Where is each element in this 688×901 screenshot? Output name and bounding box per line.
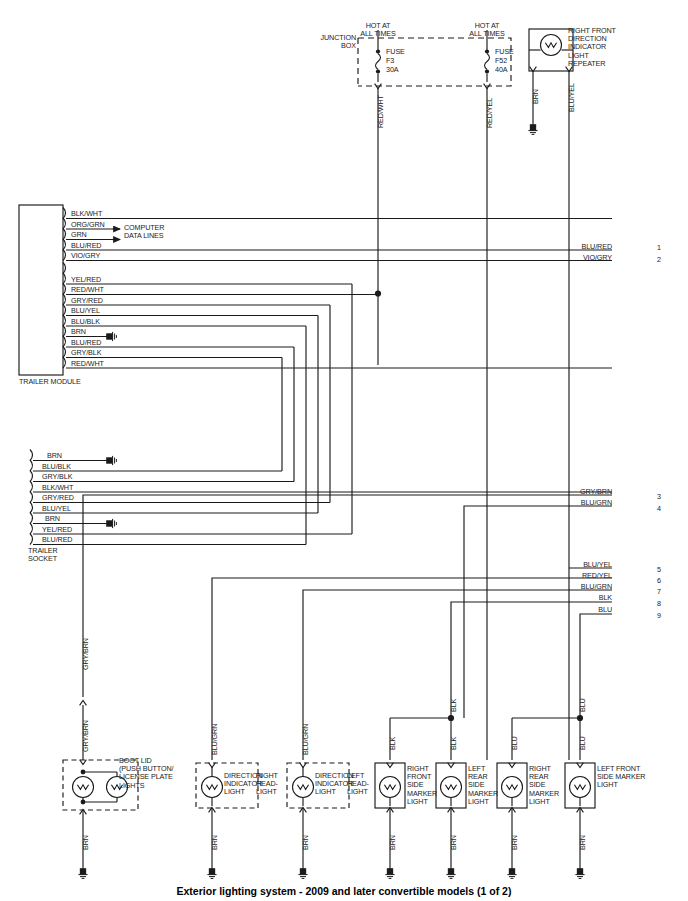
rc-wire-0: BLU/RED [552, 243, 612, 251]
wire-label-col5-top: BLK [449, 737, 458, 750]
rc-num-1: 2 [657, 256, 661, 264]
tm-pin-label-3: BLU/RED [71, 242, 101, 250]
rc-wire-6: BLU/GRN [552, 583, 612, 591]
rc-wire-7: BLK [552, 594, 612, 602]
tm-pin-label-1: ORG/GRN [71, 221, 105, 229]
lamp-label-right-front-side-marker: RIGHT FRONT SIDE MARKER LIGHT [407, 765, 449, 806]
lamp-label-right-headlight: RIGHT HEAD- LIGHT [256, 772, 290, 797]
rc-num-5: 6 [657, 577, 661, 585]
tm-pin-label-7: GRY/RED [71, 297, 103, 305]
computer-data-arrows [112, 229, 120, 240]
wire-label-blu-junction-upper: BLU [578, 698, 587, 712]
right-front-indicator-repeater [528, 29, 573, 760]
right-front-indicator-repeater-label: RIGHT FRONT DIRECTION INDICATOR LIGHT RE… [568, 27, 684, 68]
rc-num-4: 5 [657, 566, 661, 574]
fuse-f3-label: FUSE [386, 48, 405, 56]
tm-pin-label-2: GRN [71, 231, 87, 239]
wire-label-top-lamp-blu-yel: BLU/YEL [567, 83, 576, 112]
rc-wire-8: BLU [552, 606, 612, 614]
wire-label-col5-bottom: BRN [449, 835, 458, 850]
wire-label-col7-top: BLU [578, 736, 587, 750]
wire-label-col2-top: BLU/GRN [210, 724, 219, 755]
wire-label-col3-top: BLU/GRN [301, 724, 310, 755]
ts-pin-label-7: YEL/RED [42, 526, 72, 534]
rc-wire-4: BLU/YEL [552, 561, 612, 569]
ts-pin-label-0: BRN [47, 452, 62, 460]
diagram-canvas [0, 0, 688, 901]
trailer-socket-pins [30, 450, 612, 545]
ts-pin-label-8: BLU/RED [42, 536, 72, 544]
tm-pin-label-6: RED/WHT [71, 286, 104, 294]
rc-wire-5: RED/YEL [552, 572, 612, 580]
trailer-module-name: TRAILER MODULE [19, 378, 81, 386]
wire-label-red-yel-f52: RED/YEL [485, 98, 494, 128]
lamp-label-left-front-side-marker: LEFT FRONT SIDE MARKER LIGHT [597, 765, 679, 790]
rc-num-0: 1 [657, 244, 661, 252]
wire-label-col4-bottom: BRN [388, 835, 397, 850]
wire-bundle-routes [282, 284, 352, 545]
tm-pin-label-13: RED/WHT [71, 360, 104, 368]
gry-brn-route [80, 495, 612, 760]
trailer-socket-name: TRAILER SOCKET [28, 547, 88, 563]
tm-pin-label-12: GRY/BLK [71, 349, 101, 357]
fuse-f3-id: F3 [386, 57, 394, 65]
wire-label-col6-top: BLU [510, 736, 519, 750]
wire-label-boot-lid-brn: BRN [81, 835, 90, 850]
wire-label-top-lamp-brn: BRN [531, 89, 540, 104]
wire-label-col6-bottom: BRN [510, 835, 519, 850]
ts-pin-label-5: BLU/YEL [42, 505, 71, 513]
red-wht-trunk [375, 252, 381, 365]
tm-pin-label-8: BLU/YEL [71, 307, 100, 315]
rc-wire-1: VIO/GRY [552, 254, 612, 262]
diagram-caption: Exterior lighting system - 2009 and late… [0, 885, 688, 897]
junction-box-outline [358, 38, 511, 86]
fuse-f52 [484, 30, 491, 760]
blk-rail-8 [451, 602, 612, 718]
wire-label-blk-junction-upper: BLK [449, 699, 458, 712]
blk-branch [390, 715, 454, 760]
blu-branch [512, 715, 583, 760]
tm-pin-label-11: BLU/RED [71, 339, 101, 347]
rc-num-8: 9 [657, 612, 661, 620]
lamp-label-left-headlight: LEFT HEAD- LIGHT [347, 772, 381, 797]
wire-label-col2-bottom: BRN [210, 835, 219, 850]
tm-pin-label-10: BRN [71, 328, 86, 336]
fuse-f3-rating: 30A [386, 66, 399, 74]
ts-pin-label-3: BLK/WHT [42, 484, 73, 492]
tm-pin-label-0: BLK/WHT [71, 210, 102, 218]
rc-num-2: 3 [657, 493, 661, 501]
ts-pin-label-2: GRY/BLK [42, 473, 72, 481]
lamp-label-left-rear-side-marker: LEFT REAR SIDE MARKER LIGHT [468, 765, 510, 806]
blu-grn-rail-7 [303, 590, 612, 760]
ts-pin-label-4: GRY/RED [42, 494, 74, 502]
tm-pin-label-5: YEL/RED [71, 276, 101, 284]
rc-num-6: 7 [657, 588, 661, 596]
fuse-f52-rating: 40A [495, 66, 508, 74]
lamp-label-right-rear-side-marker: RIGHT REAR SIDE MARKER LIGHT [529, 765, 571, 806]
rc-wire-3: BLU/GRN [552, 499, 612, 507]
computer-data-lines-note: COMPUTER DATA LINES [124, 224, 196, 240]
wire-label-red-wht-f3: RED/WHT [376, 95, 385, 128]
rc-num-7: 8 [657, 600, 661, 608]
fuse-f52-id: F52 [495, 57, 507, 65]
wiring-diagram-page: JUNCTION BOX HOT AT ALL TIMES HOT AT ALL… [0, 0, 688, 901]
tm-pin-label-9: BLU/BLK [71, 318, 100, 326]
wire-label-col7-bottom: BRN [578, 835, 587, 850]
lamp-label-boot-lid: BOOT LID (PUSH BUTTON/ LICENSE PLATE LIG… [119, 757, 211, 790]
rc-wire-2: GRY/BRN [552, 488, 612, 496]
wire-label-col4-top: BLK [388, 737, 397, 750]
hot-at-all-times-f3: HOT AT ALL TIMES [348, 22, 408, 38]
fuse-f52-label: FUSE [495, 48, 514, 56]
wire-label-gry-brn-lower: GRY/BRN [81, 720, 90, 752]
ts-pin-label-1: BLU/BLK [42, 463, 71, 471]
tm-pin-label-4: VIO/GRY [71, 252, 100, 260]
ts-pin-label-6: BRN [45, 515, 60, 523]
trailer-module-box [19, 205, 63, 375]
wire-label-col3-bottom: BRN [301, 835, 310, 850]
rc-num-3: 4 [657, 505, 661, 513]
hot-at-all-times-f52: HOT AT ALL TIMES [457, 22, 517, 38]
wire-label-gry-brn-upper: GRY/BRN [81, 638, 90, 670]
